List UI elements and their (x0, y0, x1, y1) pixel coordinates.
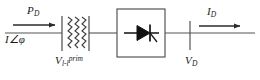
transformer-winding (62, 16, 89, 51)
label-input-power-sub: D (34, 9, 39, 18)
label-output-voltage-symbol: V (185, 54, 192, 66)
rectifier-block (117, 9, 165, 57)
label-transformer-voltage: Vl-lprim (55, 55, 83, 68)
label-transformer-voltage-sub: l-l (62, 59, 69, 68)
label-input-power-symbol: P (27, 4, 34, 16)
label-transformer-voltage-sup: prim (69, 54, 83, 63)
label-output-current-sub: D (211, 10, 216, 19)
circuit-diagram-canvas: PD I∠φ Vl-lprim ID VD (0, 0, 260, 80)
label-output-current: ID (207, 6, 216, 19)
label-output-voltage-sub: D (192, 59, 197, 68)
angle-icon: ∠ (9, 33, 19, 45)
label-input-power: PD (27, 5, 39, 18)
label-input-current-phasor: I∠φ (5, 34, 25, 45)
label-output-voltage: VD (185, 55, 197, 68)
label-transformer-voltage-symbol: V (55, 54, 62, 66)
label-phase-symbol: φ (19, 33, 25, 45)
